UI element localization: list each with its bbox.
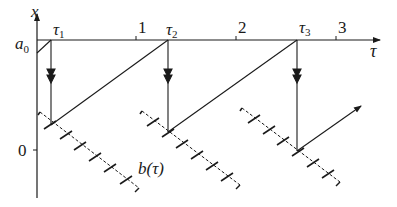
tau1-label: τ1 — [53, 20, 65, 40]
sawtooth-diagram: x 0 a0 τ τ1 1 τ2 2 τ3 3 — [0, 0, 397, 207]
tick-2-label: 2 — [238, 18, 247, 37]
b-tau-label: b(τ) — [138, 159, 164, 178]
tick-3-label: 3 — [338, 18, 347, 37]
tau-axis-label: τ — [370, 41, 377, 61]
sawtooth-rises — [37, 40, 361, 151]
x-axis — [33, 14, 37, 198]
barrier-b-segment-3 — [240, 108, 340, 186]
x-axis-label: x — [30, 2, 39, 21]
a0-label: a0 — [15, 34, 30, 55]
zero-label: 0 — [18, 141, 27, 160]
tau-axis — [37, 36, 380, 40]
tau3-label: τ3 — [299, 18, 311, 38]
tau2-label: τ2 — [166, 20, 178, 40]
tick-1-label: 1 — [138, 18, 147, 37]
sawtooth-drops — [47, 40, 301, 151]
